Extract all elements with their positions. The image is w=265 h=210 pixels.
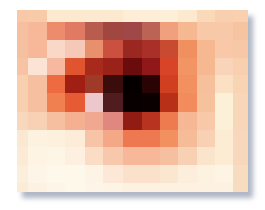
mosaic-cell bbox=[28, 22, 47, 40]
mosaic-cell bbox=[47, 183, 65, 192]
mosaic-cell bbox=[160, 22, 178, 40]
mosaic-cell bbox=[142, 183, 160, 192]
mosaic-cell bbox=[233, 40, 248, 58]
mosaic-cell bbox=[197, 130, 215, 147]
mosaic-cell bbox=[85, 130, 103, 147]
mosaic-cell bbox=[123, 22, 142, 40]
mosaic-cell bbox=[215, 10, 233, 22]
mosaic-cell bbox=[197, 58, 215, 75]
mosaic-cell bbox=[160, 58, 178, 75]
mosaic-cell bbox=[123, 165, 142, 183]
mosaic-cell bbox=[160, 183, 178, 192]
mosaic-cell bbox=[215, 147, 233, 165]
mosaic-cell bbox=[233, 165, 248, 183]
mosaic-cell bbox=[65, 93, 85, 112]
mosaic-cell bbox=[103, 10, 123, 22]
mosaic-cell bbox=[17, 165, 28, 183]
mosaic-cell bbox=[65, 22, 85, 40]
mosaic-cell bbox=[142, 22, 160, 40]
mosaic-cell bbox=[28, 165, 47, 183]
mosaic-cell bbox=[103, 22, 123, 40]
mosaic-cell bbox=[47, 75, 65, 93]
mosaic-cell bbox=[142, 130, 160, 147]
mosaic-cell bbox=[215, 58, 233, 75]
mosaic-cell bbox=[17, 112, 28, 130]
mosaic-cell bbox=[103, 75, 123, 93]
mosaic-cell bbox=[85, 10, 103, 22]
mosaic-cell bbox=[85, 22, 103, 40]
mosaic-cell bbox=[17, 40, 28, 58]
mosaic-cell bbox=[85, 40, 103, 58]
mosaic-cell bbox=[28, 183, 47, 192]
mosaic-cell bbox=[142, 75, 160, 93]
mosaic-cell bbox=[85, 75, 103, 93]
mosaic-cell bbox=[233, 130, 248, 147]
mosaic-cell bbox=[197, 112, 215, 130]
mosaic-cell bbox=[160, 112, 178, 130]
mosaic-cell bbox=[28, 75, 47, 93]
mosaic-cell bbox=[28, 10, 47, 22]
mosaic-cell bbox=[197, 165, 215, 183]
mosaic-cell bbox=[178, 10, 197, 22]
mosaic-cell bbox=[160, 10, 178, 22]
mosaic-cell bbox=[65, 58, 85, 75]
mosaic-cell bbox=[142, 10, 160, 22]
pixelated-eye-mosaic bbox=[17, 10, 248, 192]
mosaic-cell bbox=[103, 165, 123, 183]
mosaic-cell bbox=[123, 58, 142, 75]
mosaic-cell bbox=[233, 112, 248, 130]
mosaic-cell bbox=[17, 183, 28, 192]
mosaic-cell bbox=[123, 147, 142, 165]
mosaic-cell bbox=[142, 165, 160, 183]
mosaic-cell bbox=[178, 58, 197, 75]
mosaic-cell bbox=[142, 40, 160, 58]
mosaic-cell bbox=[123, 40, 142, 58]
mosaic-cell bbox=[215, 75, 233, 93]
mosaic-cell bbox=[197, 40, 215, 58]
mosaic-cell bbox=[178, 165, 197, 183]
mosaic-cell bbox=[103, 183, 123, 192]
mosaic-cell bbox=[103, 112, 123, 130]
mosaic-cell bbox=[47, 112, 65, 130]
mosaic-cell bbox=[85, 112, 103, 130]
mosaic-cell bbox=[233, 183, 248, 192]
mosaic-cell bbox=[65, 130, 85, 147]
mosaic-cell bbox=[47, 58, 65, 75]
mosaic-cell bbox=[160, 130, 178, 147]
mosaic-cell bbox=[65, 75, 85, 93]
mosaic-cell bbox=[233, 10, 248, 22]
mosaic-cell bbox=[17, 58, 28, 75]
mosaic-cell bbox=[215, 22, 233, 40]
mosaic-cell bbox=[233, 93, 248, 112]
mosaic-cell bbox=[28, 112, 47, 130]
mosaic-cell bbox=[215, 40, 233, 58]
mosaic-cell bbox=[28, 130, 47, 147]
mosaic-cell bbox=[197, 93, 215, 112]
mosaic-cell bbox=[197, 183, 215, 192]
mosaic-cell bbox=[47, 147, 65, 165]
mosaic-cell bbox=[65, 112, 85, 130]
mosaic-cell bbox=[85, 58, 103, 75]
mosaic-cell bbox=[85, 147, 103, 165]
mosaic-cell bbox=[215, 93, 233, 112]
mosaic-cell bbox=[178, 147, 197, 165]
mosaic-cell bbox=[123, 93, 142, 112]
mosaic-cell bbox=[178, 130, 197, 147]
mosaic-cell bbox=[47, 93, 65, 112]
mosaic-cell bbox=[47, 40, 65, 58]
mosaic-cell bbox=[123, 75, 142, 93]
mosaic-cell bbox=[142, 93, 160, 112]
mosaic-cell bbox=[197, 75, 215, 93]
mosaic-cell bbox=[28, 40, 47, 58]
mosaic-cell bbox=[103, 93, 123, 112]
mosaic-cell bbox=[103, 40, 123, 58]
mosaic-cell bbox=[65, 147, 85, 165]
mosaic-cell bbox=[215, 130, 233, 147]
mosaic-cell bbox=[123, 130, 142, 147]
mosaic-cell bbox=[233, 75, 248, 93]
mosaic-cell bbox=[178, 93, 197, 112]
mosaic-cell bbox=[197, 10, 215, 22]
mosaic-cell bbox=[85, 183, 103, 192]
mosaic-cell bbox=[160, 147, 178, 165]
mosaic-cell bbox=[233, 22, 248, 40]
